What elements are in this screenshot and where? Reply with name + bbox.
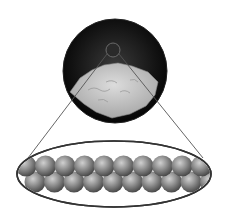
focus-circle	[106, 43, 120, 57]
atom	[172, 156, 193, 177]
atom	[16, 156, 37, 177]
atom	[152, 156, 173, 177]
magnifier-lens	[63, 19, 167, 123]
magnification-diagram	[0, 0, 229, 222]
atom	[55, 156, 76, 177]
atom	[74, 156, 95, 177]
atom	[35, 156, 56, 177]
atomic-lattice	[16, 141, 222, 207]
atom	[133, 156, 154, 177]
atom	[113, 156, 134, 177]
atom	[94, 156, 115, 177]
